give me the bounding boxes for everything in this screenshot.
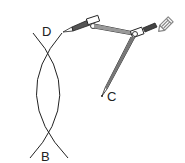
compass-pencil-tip bbox=[63, 27, 73, 32]
compass-pivot-screw bbox=[133, 32, 138, 37]
left-arc bbox=[36, 33, 68, 158]
compass-needle-leg-fill bbox=[105, 37, 135, 89]
label-d: D bbox=[42, 24, 51, 39]
label-c: C bbox=[107, 89, 116, 104]
right-arc bbox=[30, 33, 60, 158]
pencil-icon bbox=[156, 17, 173, 34]
compass-handle bbox=[143, 23, 157, 32]
arcs bbox=[30, 33, 68, 158]
compass-icon bbox=[63, 15, 157, 96]
construction-diagram: D B C bbox=[0, 0, 185, 163]
label-b: B bbox=[41, 149, 50, 163]
